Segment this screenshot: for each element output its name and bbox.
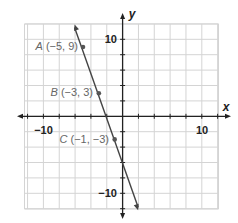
y-axis-up-arrow-icon [120, 13, 125, 19]
x-axis-label: x [222, 100, 231, 114]
x-axis-left-arrow-icon [17, 114, 23, 119]
coordinate-plane: −10 10 10 −10 x y A (−5, 9) B (−3, 3) C … [0, 0, 238, 223]
y-tick-label-neg10: −10 [98, 187, 117, 199]
point-c [112, 137, 117, 142]
x-axis-right-arrow-icon [225, 114, 231, 119]
point-label-c: C (−1, −3) [59, 133, 109, 145]
x-tick-label-neg10: −10 [34, 124, 53, 136]
y-axis-label: y [128, 7, 137, 21]
point-label-a: A (−5, 9) [34, 40, 78, 52]
point-b [97, 91, 102, 96]
y-axis-down-arrow-icon [120, 213, 125, 219]
point-label-b: B (−3, 3) [50, 86, 93, 98]
line-start-arrow-icon [74, 24, 79, 31]
x-tick-label-10: 10 [196, 124, 208, 136]
y-tick-label-10: 10 [105, 33, 117, 45]
point-a [81, 45, 86, 50]
